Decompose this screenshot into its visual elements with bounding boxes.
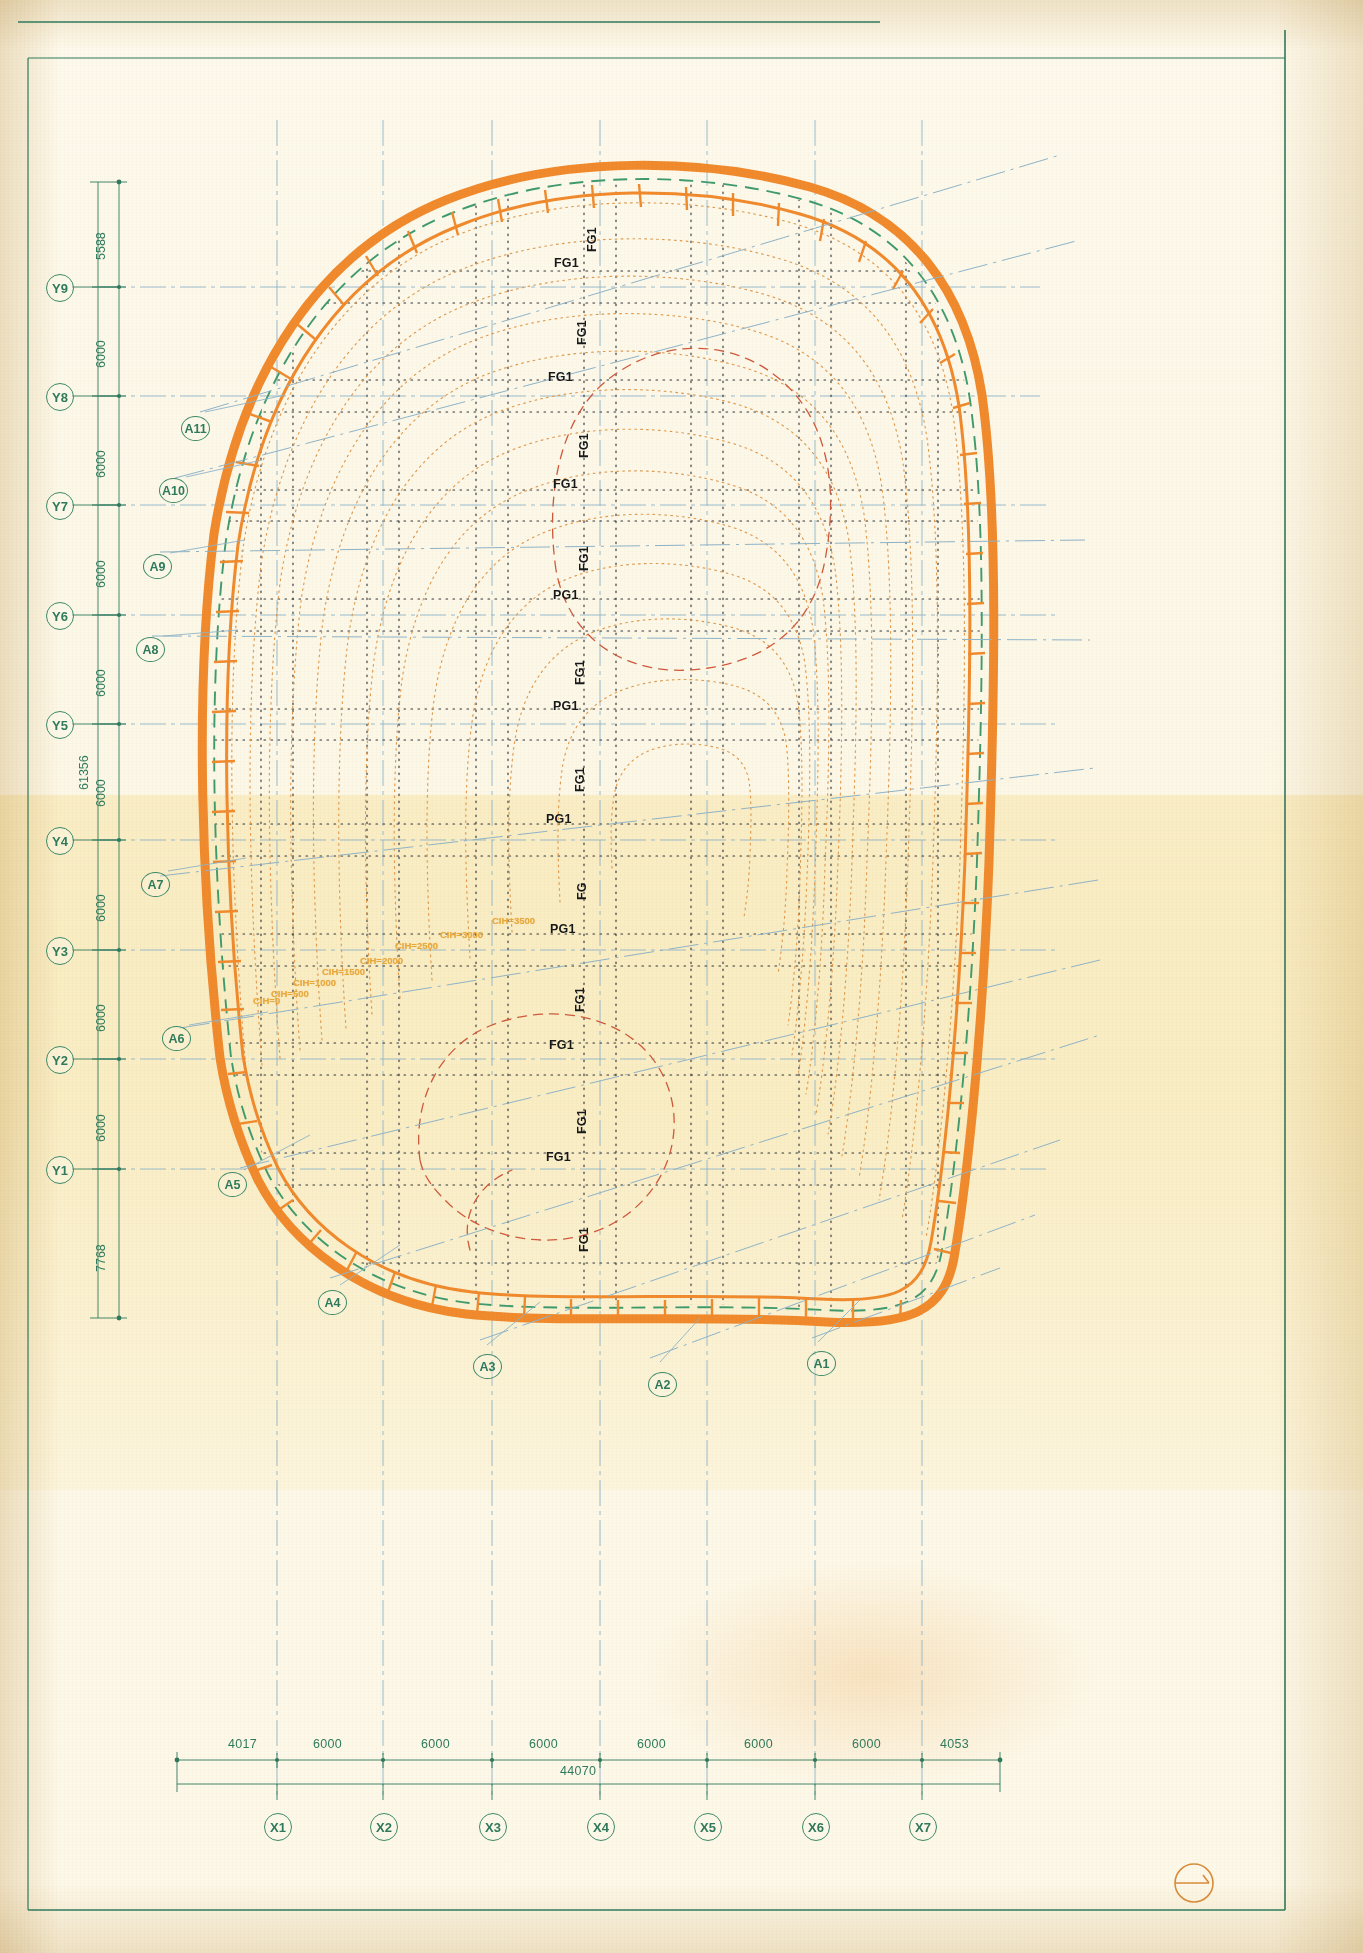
dim-y-2: 6000 xyxy=(95,450,108,478)
section-marker-label: A5 xyxy=(225,1178,241,1192)
grid-bubble-y9[interactable]: Y9 xyxy=(46,274,74,302)
section-marker-a10[interactable]: A10 xyxy=(159,478,188,503)
section-marker-label: A3 xyxy=(480,1360,496,1374)
grid-bubble-x5[interactable]: X5 xyxy=(694,1813,722,1841)
grid-bubble-y7[interactable]: Y7 xyxy=(46,492,74,520)
dim-value: 6000 xyxy=(529,1737,558,1751)
contour-label-1000: CIH=1000 xyxy=(293,977,336,988)
grid-bubble-y2[interactable]: Y2 xyxy=(46,1046,74,1074)
dim-y-8: 6000 xyxy=(95,1114,108,1142)
girder-label-fg1-4: FG1 xyxy=(548,370,573,384)
girder-text: FG1 xyxy=(573,767,587,792)
girder-text: FG1 xyxy=(573,987,587,1012)
dim-value: 6000 xyxy=(94,450,108,478)
contour-label-2000: CIH=2000 xyxy=(360,955,403,966)
section-marker-a3[interactable]: A3 xyxy=(473,1354,502,1379)
dim-value: 6000 xyxy=(94,1004,108,1032)
contour-label-0: CIH=0 xyxy=(253,995,280,1006)
dim-value: 6000 xyxy=(94,894,108,922)
section-marker-a9[interactable]: A9 xyxy=(143,554,172,579)
grid-bubble-x1[interactable]: X1 xyxy=(264,1813,292,1841)
dim-value: 6000 xyxy=(637,1737,666,1751)
dim-value: 6000 xyxy=(744,1737,773,1751)
grid-bubble-label: X3 xyxy=(485,1820,501,1835)
girder-text: PG1 xyxy=(553,699,579,713)
grid-bubble-x7[interactable]: X7 xyxy=(909,1813,937,1841)
dim-value: 6000 xyxy=(313,1737,342,1751)
section-marker-a6[interactable]: A6 xyxy=(162,1026,191,1051)
dim-y-4: 6000 xyxy=(95,669,108,697)
section-marker-a2[interactable]: A2 xyxy=(648,1372,677,1397)
section-marker-a5[interactable]: A5 xyxy=(218,1172,247,1197)
grid-bubble-y5[interactable]: Y5 xyxy=(46,711,74,739)
girder-label-pg1-3: PG1 xyxy=(546,812,572,826)
dim-x-1: 6000 xyxy=(313,1738,342,1751)
grid-bubble-x2[interactable]: X2 xyxy=(370,1813,398,1841)
section-marker-a11[interactable]: A11 xyxy=(181,416,210,441)
girder-label-pg1-2: PG1 xyxy=(553,699,579,713)
section-marker-label: A11 xyxy=(184,422,206,436)
dim-x-total: 44070 xyxy=(560,1765,596,1778)
girder-label-fg1-10: FG1 xyxy=(573,987,587,1012)
section-marker-a4[interactable]: A4 xyxy=(318,1290,347,1315)
grid-bubble-x4[interactable]: X4 xyxy=(587,1813,615,1841)
dim-y-total: 61356 xyxy=(78,755,91,790)
dim-x-6: 6000 xyxy=(852,1738,881,1751)
dim-value: 4017 xyxy=(228,1737,257,1751)
grid-bubble-label: Y4 xyxy=(52,834,68,849)
contour-text: CIH=2500 xyxy=(395,940,438,951)
drawing-sheet: Y9 Y8 Y7 Y6 Y5 Y4 Y3 Y2 Y1 X1 X2 X3 X4 X… xyxy=(0,0,1363,1953)
girder-text: FG1 xyxy=(575,1109,589,1134)
paper-grain xyxy=(0,0,1363,1953)
section-marker-a8[interactable]: A8 xyxy=(136,637,165,662)
girder-label-fg1-13: FG1 xyxy=(546,1150,571,1164)
grid-bubble-label: X7 xyxy=(915,1820,931,1835)
dim-y-7: 6000 xyxy=(95,1004,108,1032)
girder-text: FG1 xyxy=(573,660,587,685)
contour-text: CIH=3000 xyxy=(440,929,483,940)
grid-bubble-y1[interactable]: Y1 xyxy=(46,1156,74,1184)
girder-text: FG1 xyxy=(546,1150,571,1164)
grid-bubble-x3[interactable]: X3 xyxy=(479,1813,507,1841)
dim-y-5: 6000 xyxy=(95,779,108,807)
dim-x-4017: 4017 xyxy=(228,1738,257,1751)
girder-label-fg1-12: FG1 xyxy=(575,1109,589,1134)
grid-bubble-label: X5 xyxy=(700,1820,716,1835)
grid-bubble-x6[interactable]: X6 xyxy=(802,1813,830,1841)
dim-value: 6000 xyxy=(94,1114,108,1142)
section-marker-label: A2 xyxy=(655,1378,671,1392)
grid-bubble-y6[interactable]: Y6 xyxy=(46,602,74,630)
girder-label-fg-1: FG xyxy=(575,882,589,900)
grid-bubble-y4[interactable]: Y4 xyxy=(46,827,74,855)
dim-x-3: 6000 xyxy=(529,1738,558,1751)
girder-text: FG1 xyxy=(577,546,591,571)
section-marker-label: A10 xyxy=(162,484,185,498)
girder-label-fg1-5: FG1 xyxy=(577,433,591,458)
dim-x-4053: 4053 xyxy=(940,1738,969,1751)
dim-value: 6000 xyxy=(94,340,108,368)
grid-bubble-y8[interactable]: Y8 xyxy=(46,383,74,411)
girder-text: FG1 xyxy=(585,227,599,252)
section-marker-a7[interactable]: A7 xyxy=(141,872,170,897)
dim-x-5: 6000 xyxy=(744,1738,773,1751)
section-marker-label: A7 xyxy=(148,878,164,892)
dim-y-5588: 5588 xyxy=(95,232,108,260)
girder-text: PG1 xyxy=(550,922,576,936)
girder-text: FG xyxy=(575,882,589,900)
girder-label-pg1-4: PG1 xyxy=(550,922,576,936)
girder-label-fg1-14: FG1 xyxy=(577,1227,591,1252)
girder-label-fg1-6: FG1 xyxy=(553,477,578,491)
girder-label-fg1-7: FG1 xyxy=(577,546,591,571)
grid-bubble-label: Y5 xyxy=(52,718,68,733)
section-marker-a1[interactable]: A1 xyxy=(807,1351,836,1376)
grid-bubble-label: Y9 xyxy=(52,281,68,296)
grid-bubble-label: Y8 xyxy=(52,390,68,405)
contour-label-3000: CIH=3000 xyxy=(440,929,483,940)
girder-label-fg1-11: FG1 xyxy=(549,1038,574,1052)
contour-label-1500: CIH=1500 xyxy=(322,966,365,977)
contour-text: CIH=1500 xyxy=(322,966,365,977)
dim-value: 6000 xyxy=(421,1737,450,1751)
grid-bubble-label: X4 xyxy=(593,1820,609,1835)
girder-label-fg1-9: FG1 xyxy=(573,767,587,792)
grid-bubble-y3[interactable]: Y3 xyxy=(46,937,74,965)
